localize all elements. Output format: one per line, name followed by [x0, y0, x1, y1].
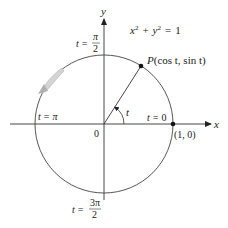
angle-arc	[115, 107, 124, 124]
point-P	[139, 64, 144, 69]
t-pi-over-2-label: t= π 2	[76, 31, 100, 54]
svg-text:t=: t=	[72, 204, 84, 215]
y-axis-label: y	[100, 5, 106, 17]
point-1-0-label: (1, 0)	[174, 129, 196, 141]
point-P-label: P(cos t, sin t)	[146, 54, 206, 67]
angle-t-label: t	[126, 106, 130, 118]
svg-text:2: 2	[93, 43, 98, 54]
svg-text:π: π	[93, 31, 99, 42]
counterclockwise-arrow-icon	[38, 68, 64, 94]
origin-label: 0	[94, 128, 99, 139]
x-axis-label: x	[213, 118, 219, 130]
t-pi-label: t=π	[38, 111, 58, 122]
svg-text:3π: 3π	[90, 197, 100, 208]
svg-text:t=: t=	[76, 38, 88, 49]
t-3pi-over-2-label: t= 3π 2	[72, 197, 101, 220]
point-1-0	[171, 122, 176, 127]
t-zero-label: t=0	[147, 112, 166, 123]
circle-equation: x2+y2=1	[129, 24, 181, 36]
unit-circle-diagram: x2+y2=1 y x 0 P(cos t, sin t) (1, 0) t t…	[0, 0, 228, 228]
svg-text:2: 2	[92, 209, 97, 220]
